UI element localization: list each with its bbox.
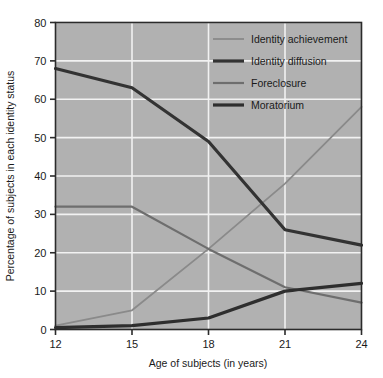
y-tick-label: 50 [34, 132, 46, 144]
y-tick-label: 10 [34, 285, 46, 297]
y-tick-label: 20 [34, 247, 46, 259]
y-axis-title: Percentage of subjects in each identity … [4, 71, 16, 282]
x-tick-label: 12 [49, 338, 61, 350]
x-tick-label: 24 [355, 338, 367, 350]
y-tick-label: 30 [34, 208, 46, 220]
chart-canvas: 01020304050607080 1215182124 Percentage … [0, 0, 383, 378]
x-tick-label: 15 [126, 338, 138, 350]
y-tick-label: 40 [34, 170, 46, 182]
legend-label-identity-achievement: Identity achievement [251, 33, 347, 45]
x-tick-label: 18 [202, 338, 214, 350]
x-axis-title: Age of subjects (in years) [149, 357, 267, 369]
line-chart-figure: 01020304050607080 1215182124 Percentage … [0, 0, 383, 378]
legend-label-moratorium: Moratorium [251, 99, 304, 111]
x-tick-label: 21 [279, 338, 291, 350]
y-tick-label: 0 [40, 324, 46, 336]
y-tick-label: 60 [34, 93, 46, 105]
y-tick-label: 70 [34, 55, 46, 67]
legend-label-identity-diffusion: Identity diffusion [251, 55, 327, 67]
y-tick-label: 80 [34, 17, 46, 29]
legend-label-foreclosure: Foreclosure [251, 77, 307, 89]
